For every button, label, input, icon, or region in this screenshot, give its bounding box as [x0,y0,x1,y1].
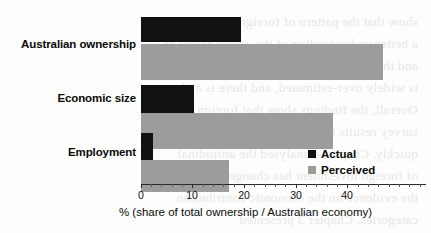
x-axis-tick-minor [389,184,390,187]
x-axis-tick-minor [306,184,307,187]
legend-item-perceived: Perceived [308,162,375,177]
x-axis-tick-40 [347,184,348,188]
legend-label-actual: Actual [321,148,356,160]
category-axis: Australian ownership Economic size Emplo… [0,0,136,233]
x-axis-tick-minor [378,184,379,187]
bar-actual-australian-ownership [141,17,241,42]
plot-area [141,8,426,184]
x-axis-tick-minor [234,184,235,187]
x-axis-tick-10 [192,184,193,188]
x-tick-label-10: 10 [186,189,198,201]
black-square-icon [308,150,316,158]
x-axis-tick-0 [141,184,142,188]
x-axis-tick-minor [213,184,214,187]
bar-perceived-australian-ownership [141,44,383,80]
x-axis-tick-20 [244,184,245,188]
category-label-australian-ownership: Australian ownership [5,38,136,50]
x-axis-tick-minor [285,184,286,187]
bar-perceived-employment [141,160,229,192]
x-axis-tick-minor [368,184,369,187]
bar-actual-economic-size [141,85,194,113]
legend-label-perceived: Perceived [321,164,375,176]
x-axis-title: % (share of total ownership / Australian… [0,206,431,218]
legend-item-actual: Actual [308,146,375,161]
chart-legend: Actual Perceived [308,146,375,178]
x-axis-tick-30 [296,184,297,188]
category-label-employment: Employment [5,146,136,158]
x-axis-tick-minor [420,184,421,187]
x-axis-tick-minor [182,184,183,187]
x-axis-tick-minor [316,184,317,187]
bar-perceived-economic-size [141,113,333,149]
gray-square-icon [308,166,316,174]
x-tick-label-20: 20 [238,189,250,201]
x-axis-tick-minor [337,184,338,187]
bar-chart: Australian ownership Economic size Emplo… [0,0,431,233]
x-tick-label-30: 30 [290,189,302,201]
x-axis-tick-minor [327,184,328,187]
x-axis-tick-minor [399,184,400,187]
x-axis-tick-minor [409,184,410,187]
x-axis-tick-minor [172,184,173,187]
bar-actual-employment [141,133,153,160]
x-axis-tick-minor [161,184,162,187]
x-tick-label-40: 40 [341,189,353,201]
x-axis-tick-minor [275,184,276,187]
x-tick-label-0: 0 [138,189,144,201]
x-axis-tick-minor [223,184,224,187]
x-axis-tick-minor [151,184,152,187]
chart-figure: show that the pattern of foreign ownersh… [0,0,431,233]
x-axis-line [141,184,426,185]
x-axis-tick-minor [265,184,266,187]
x-axis-tick-minor [254,184,255,187]
category-label-economic-size: Economic size [5,92,136,104]
x-axis-tick-minor [203,184,204,187]
x-axis-tick-minor [358,184,359,187]
